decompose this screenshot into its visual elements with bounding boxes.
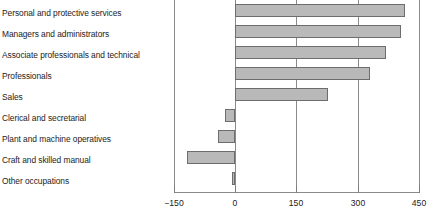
x-tick <box>235 186 236 193</box>
bar <box>235 46 386 59</box>
bar <box>187 151 235 164</box>
category-label: Managers and administrators <box>2 29 170 39</box>
x-tick-label: 300 <box>351 198 365 208</box>
x-tick <box>419 186 420 193</box>
bar <box>225 109 235 122</box>
bar-chart: Personal and protective services Manager… <box>0 0 429 224</box>
category-label: Associate professionals and technical <box>2 50 170 60</box>
category-label: Craft and skilled manual <box>2 155 170 165</box>
x-tick <box>358 186 359 193</box>
category-label: Clerical and secretarial <box>2 113 170 123</box>
category-label: Plant and machine operatives <box>2 134 170 144</box>
category-label: Professionals <box>2 71 170 81</box>
x-tick <box>174 186 175 193</box>
x-axis-tick-labels: −150 0 150 300 450 <box>0 193 429 224</box>
x-tick-label: 150 <box>289 198 303 208</box>
bar <box>235 4 404 17</box>
x-tick <box>296 186 297 193</box>
bar <box>218 130 235 143</box>
gridline-450 <box>419 0 420 193</box>
x-tick-label: 0 <box>233 198 238 208</box>
y-axis-line <box>174 0 175 193</box>
category-label: Personal and protective services <box>2 8 170 18</box>
x-tick-label: −150 <box>164 198 183 208</box>
category-label: Other occupations <box>2 176 170 186</box>
bar <box>235 67 370 80</box>
category-label: Sales <box>2 92 170 102</box>
category-axis-labels: Personal and protective services Manager… <box>0 0 174 193</box>
bar <box>235 25 400 38</box>
bar <box>232 172 235 185</box>
x-tick-label: 450 <box>412 198 426 208</box>
bar <box>235 88 327 101</box>
plot-area <box>174 0 419 193</box>
